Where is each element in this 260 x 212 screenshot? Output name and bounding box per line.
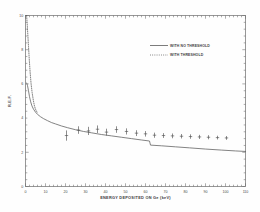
x-tick-label: 100	[223, 190, 229, 194]
y-tick-label: 4	[21, 116, 23, 120]
data-point-markers	[65, 125, 228, 140]
data-point	[225, 136, 228, 140]
data-point	[115, 126, 118, 132]
plot-frame	[26, 16, 246, 187]
data-series-group	[27, 16, 246, 152]
data-point	[105, 129, 108, 136]
y-tick-label: 0	[21, 185, 23, 189]
legend-label: WITH NO THRESHOLD	[170, 44, 210, 48]
data-point	[162, 133, 165, 138]
x-tick-label: 10	[44, 190, 48, 194]
y-tick-label: 6	[21, 82, 23, 86]
x-tick-label: 30	[84, 190, 88, 194]
x-tick-label: 90	[204, 190, 208, 194]
data-point	[96, 125, 99, 133]
data-point	[77, 126, 80, 134]
y-tick-label: 8	[21, 48, 23, 52]
y-tick-labels: 0246810	[19, 14, 23, 189]
data-point	[87, 127, 90, 135]
x-tick-label: 70	[164, 190, 168, 194]
legend: WITH NO THRESHOLDWITH THRESHOLD	[150, 44, 210, 58]
x-tick-label: 20	[64, 190, 68, 194]
legend-label: WITH THRESHOLD	[170, 53, 204, 57]
data-point	[65, 130, 68, 140]
axis-ticks	[26, 16, 246, 187]
data-point	[180, 134, 183, 138]
y-tick-label: 10	[19, 14, 23, 18]
data-point	[216, 136, 219, 140]
x-tick-labels: 0102030405060708090100110	[25, 190, 249, 194]
data-point	[153, 133, 156, 138]
x-tick-label: 80	[184, 190, 188, 194]
series-curve-dotted	[27, 16, 37, 113]
data-point	[125, 128, 128, 134]
y-axis-title: R.E.F.	[7, 95, 12, 107]
y-tick-label: 2	[21, 151, 23, 155]
series-curve-solid	[27, 83, 246, 151]
plot-svg: 01020304050607080901001100246810ENERGY D…	[0, 0, 260, 212]
x-tick-label: 60	[144, 190, 148, 194]
x-tick-label: 0	[25, 190, 27, 194]
data-point	[144, 131, 147, 136]
data-point	[189, 134, 192, 138]
x-tick-label: 40	[104, 190, 108, 194]
data-point	[135, 130, 138, 136]
x-tick-label: 50	[124, 190, 128, 194]
x-axis-title: ENERGY DEPOSITED ON Ge (keV)	[100, 195, 171, 200]
data-point	[207, 135, 210, 139]
data-point	[171, 133, 174, 138]
data-point	[198, 135, 201, 139]
x-tick-label: 110	[243, 190, 249, 194]
figure-canvas: 01020304050607080901001100246810ENERGY D…	[0, 0, 260, 212]
